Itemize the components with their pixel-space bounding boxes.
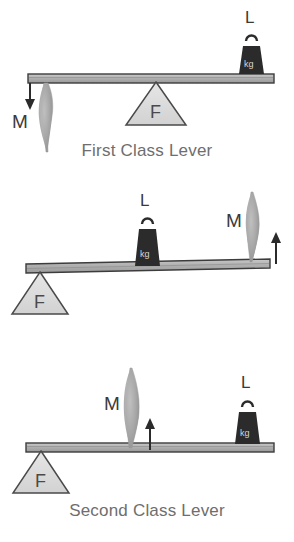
load-label-l: L: [245, 8, 254, 27]
muscle-label-m: M: [12, 111, 28, 132]
second-class-lever-panel: F L kg M: [0, 180, 294, 360]
fulcrum-label-f: F: [150, 102, 161, 122]
muscle-force-arrow-down: [25, 83, 35, 110]
fulcrum-group-f: F: [12, 272, 68, 314]
fulcrum-group-f: F: [126, 82, 186, 125]
muscle-label-m: M: [226, 210, 242, 231]
weight-kg-text: kg: [140, 249, 150, 259]
load-label-l: L: [140, 191, 149, 210]
lever-classes-figure: M F L kg First Class Lever: [0, 0, 294, 542]
third-class-lever-panel: F M L kg: [0, 360, 294, 542]
muscle-label-m: M: [104, 393, 120, 414]
fulcrum-group-f: F: [13, 451, 69, 493]
muscle-belly: [246, 194, 259, 262]
muscle-force-arrow-up: [271, 232, 281, 264]
weight-kg-text: kg: [240, 428, 250, 438]
load-group-l: L kg: [235, 373, 260, 444]
weight-icon: kg: [235, 402, 260, 445]
muscle-group-m: M: [226, 192, 281, 264]
weight-icon: kg: [135, 219, 160, 267]
second-class-lever-illustration: F L kg M: [0, 180, 294, 360]
load-group-l: L kg: [135, 191, 160, 266]
fulcrum-label-f: F: [35, 471, 46, 491]
muscle-group-m: M: [104, 368, 155, 450]
load-label-l: L: [241, 373, 250, 392]
muscle-belly: [124, 370, 139, 448]
lever-beam: [28, 74, 274, 83]
weight-kg-text: kg: [244, 59, 254, 69]
third-class-lever-illustration: F M L kg: [0, 360, 294, 542]
first-class-lever-caption: First Class Lever: [0, 141, 294, 161]
load-group-l: L kg: [239, 8, 264, 74]
fulcrum-label-f: F: [34, 292, 45, 312]
first-class-lever-panel: M F L kg First Class Lever: [0, 0, 294, 180]
weight-icon: kg: [239, 36, 264, 75]
